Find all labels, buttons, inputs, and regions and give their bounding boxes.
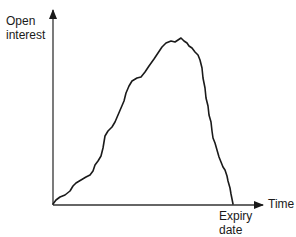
y-axis-label: Open interest xyxy=(6,14,45,42)
expiry-label-line2: date xyxy=(219,223,252,237)
y-axis-label-line1: Open xyxy=(6,14,45,28)
x-axis-label: Time xyxy=(268,197,294,211)
open-interest-curve xyxy=(53,38,233,204)
expiry-label-line1: Expiry xyxy=(219,209,252,223)
expiry-date-label: Expiry date xyxy=(219,209,252,237)
y-axis-label-line2: interest xyxy=(6,28,45,42)
